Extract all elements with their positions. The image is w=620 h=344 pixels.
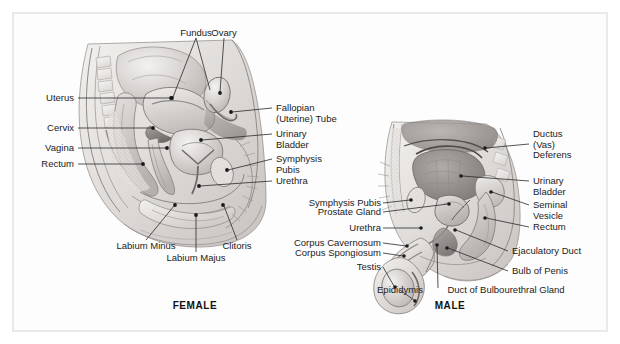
label-female-labium-majus: Labium Majus (156, 253, 236, 264)
label-male-urethra: Urethra (265, 223, 381, 234)
label-female-urinary-bladder: Urinary Bladder (276, 129, 309, 150)
caption-male: MALE (420, 300, 480, 311)
label-female-clitoris: Clitoris (212, 241, 262, 252)
figure-page: Fundus Ovary Uterus Cervix Vagina Rectum… (0, 0, 620, 344)
label-male-prostate-gland: Prostate Gland (265, 207, 381, 218)
label-female-labium-minus: Labium Minus (106, 241, 186, 252)
label-female-cervix: Cervix (0, 123, 74, 134)
caption-female: FEMALE (155, 300, 235, 311)
female-anatomy-illustration (79, 40, 266, 247)
label-male-testis: Testis (265, 262, 381, 273)
label-female-urethra: Urethra (276, 176, 308, 187)
label-female-fallopian-tube: Fallopian (Uterine) Tube (276, 103, 337, 124)
label-female-symphysis-pubis: Symphysis Pubis (276, 154, 322, 175)
label-female-rectum: Rectum (0, 159, 74, 170)
label-male-rectum: Rectum (533, 222, 566, 233)
label-male-duct-of-bulbourethral-gland: Duct of Bulbourethral Gland (433, 285, 579, 296)
label-male-epididymis: Epididymis (368, 285, 432, 296)
label-female-uterus: Uterus (0, 93, 74, 104)
label-male-corpus-spongiosum: Corpus Spongiosum (265, 248, 381, 259)
label-male-seminal-vesicle: Seminal Vesicle (533, 200, 567, 221)
label-female-vagina: Vagina (0, 143, 74, 154)
label-male-bulb-of-penis: Bulb of Penis (512, 266, 568, 277)
label-male-ejaculatory-duct: Ejaculatory Duct (512, 246, 581, 257)
label-female-ovary: Ovary (196, 28, 252, 39)
label-male-urinary-bladder: Urinary Bladder (533, 176, 566, 197)
label-male-ductus-deferens: Ductus (Vas) Deferens (533, 129, 572, 161)
